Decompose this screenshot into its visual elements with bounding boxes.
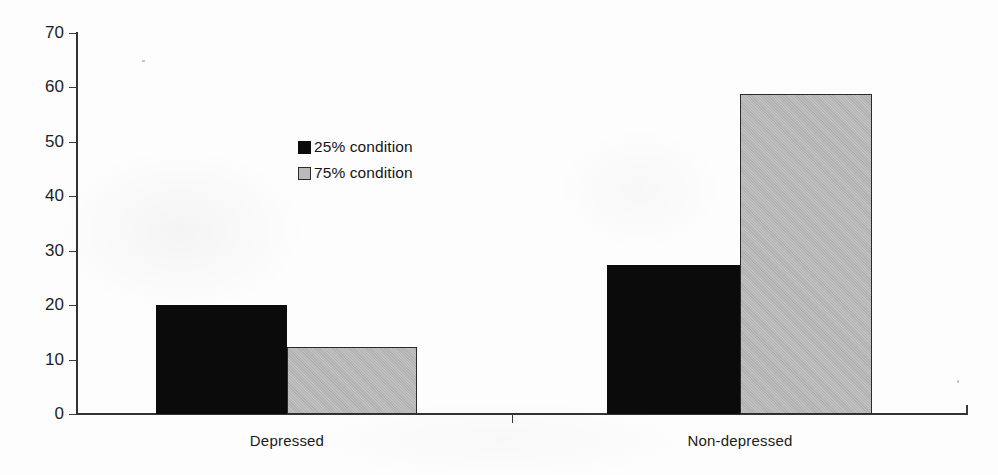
y-tick-mark bbox=[69, 142, 76, 143]
y-tick-mark bbox=[69, 87, 76, 88]
y-tick-label: 30 bbox=[30, 242, 64, 259]
y-tick-label: 70 bbox=[30, 24, 64, 41]
x-axis-label-non-depressed: Non-depressed bbox=[687, 432, 792, 449]
bar-depressed-75pct[interactable] bbox=[287, 347, 417, 414]
y-tick-mark bbox=[69, 251, 76, 252]
bar-depressed-25pct[interactable] bbox=[156, 305, 287, 414]
bar-nondepressed-75pct[interactable] bbox=[740, 94, 872, 414]
scan-speck bbox=[957, 380, 959, 383]
y-tick-mark bbox=[69, 33, 76, 34]
bar-nondepressed-25pct[interactable] bbox=[607, 265, 740, 414]
y-tick-mark bbox=[69, 196, 76, 197]
y-tick-label: 60 bbox=[30, 78, 64, 95]
y-tick-label: 10 bbox=[30, 351, 64, 368]
y-tick-mark bbox=[69, 305, 76, 306]
x-tick-separator bbox=[512, 414, 513, 423]
y-tick-mark bbox=[69, 414, 76, 415]
legend: 25% condition 75% condition bbox=[298, 134, 413, 186]
y-tick-label: 20 bbox=[30, 296, 64, 313]
y-axis-line bbox=[76, 32, 78, 415]
legend-entry-25pct[interactable]: 25% condition bbox=[298, 134, 413, 160]
y-tick-label: 50 bbox=[30, 133, 64, 150]
x-axis-end-tick bbox=[966, 405, 968, 414]
y-tick-label: 40 bbox=[30, 187, 64, 204]
legend-swatch-icon bbox=[298, 167, 311, 180]
scan-speck bbox=[142, 60, 145, 62]
x-axis-label-depressed: Depressed bbox=[250, 432, 324, 449]
bar-chart-figure: 70 60 50 40 30 20 10 0 bbox=[0, 0, 998, 475]
legend-label: 25% condition bbox=[314, 138, 413, 156]
legend-label: 75% condition bbox=[314, 164, 413, 182]
y-tick-mark bbox=[69, 360, 76, 361]
y-tick-label: 0 bbox=[30, 405, 64, 422]
legend-entry-75pct[interactable]: 75% condition bbox=[298, 160, 413, 186]
plot-area: 70 60 50 40 30 20 10 0 bbox=[0, 0, 998, 475]
legend-swatch-icon bbox=[298, 141, 311, 154]
